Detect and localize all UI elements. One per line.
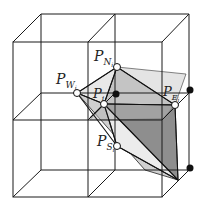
label-p-n: PNi	[93, 48, 113, 68]
label-p-w: PWi	[55, 71, 77, 91]
solid-point-right-top	[187, 87, 194, 94]
point-p-n	[114, 64, 121, 71]
mesh-diagram: PNi PWi Pi PEi PSi	[0, 0, 202, 208]
solid-point-center	[113, 91, 120, 98]
solid-point-right-bottom	[187, 165, 194, 172]
label-p-s: PSi	[96, 133, 115, 153]
point-p-s	[114, 143, 121, 150]
